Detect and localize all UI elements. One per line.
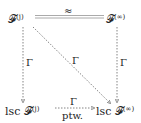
edge-right-label: Γ [120,58,127,68]
node-sup: (∞) [114,13,125,21]
node-sup: (j) [32,105,40,113]
edge-bottom-label-below: ptw. [62,111,83,121]
commutative-diagram: 𝓕(j) 𝓕(∞) lsc 𝓕(j) lsc 𝓕(∞) ≈ Γ Γ Γ Γ pt… [0,0,141,123]
node-top-right: 𝓕(∞) [106,11,125,26]
node-prefix: lsc [5,105,24,118]
node-prefix: lsc [96,105,115,118]
edge-bottom-label-above: Γ [70,97,77,107]
node-bottom-left: lsc 𝓕(j) [5,103,39,118]
node-base: 𝓕 [24,105,32,118]
node-bottom-right: lsc 𝓕(∞) [96,103,134,118]
node-sup: (∞) [123,105,134,113]
node-base: 𝓕 [106,13,114,26]
node-base: 𝓕 [115,105,123,118]
node-top-left: 𝓕(j) [8,11,24,26]
node-base: 𝓕 [8,13,16,26]
edge-diagonal-label: Γ [72,56,79,66]
edge-left-label: Γ [26,58,33,68]
node-sup: (j) [16,13,24,21]
edge-top-label: ≈ [64,6,72,16]
